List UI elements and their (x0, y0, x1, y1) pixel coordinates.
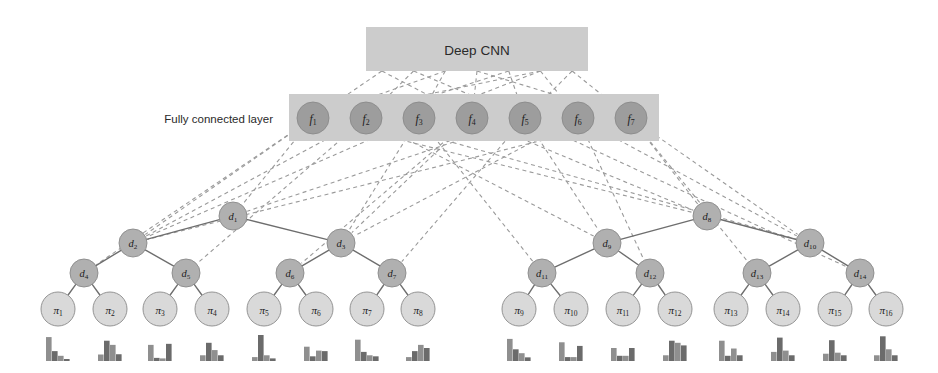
decision-node-d4[interactable]: d4 (70, 259, 98, 287)
histogram-bar (737, 355, 743, 361)
leaf-histogram-pi7 (355, 340, 379, 361)
tree-edge (765, 284, 773, 295)
histogram-bar (316, 351, 322, 361)
fc-node-f1[interactable]: f1 (297, 102, 329, 134)
leaf-node-pi12[interactable]: π12 (658, 292, 692, 326)
decision-node-d11[interactable]: d11 (528, 259, 556, 287)
histogram-bar (367, 355, 373, 361)
histogram-bar (823, 354, 829, 361)
leaf-node-pi6[interactable]: π6 (299, 292, 333, 326)
histogram-bar (218, 355, 224, 361)
leaf-histogram-pi9 (507, 339, 531, 361)
histogram-bar (611, 348, 617, 361)
histogram-bar (252, 357, 258, 361)
histogram-bar (663, 355, 669, 361)
tree-edge (147, 220, 220, 240)
leaf-node-pi14[interactable]: π14 (766, 292, 800, 326)
decision-node-d6[interactable]: d6 (276, 259, 304, 287)
histogram-bar (264, 355, 270, 361)
leaf-node-pi8[interactable]: π8 (401, 292, 435, 326)
leaf-histogram-pi15 (823, 340, 847, 361)
decision-node-d9[interactable]: d9 (593, 229, 621, 257)
decision-node-d13[interactable]: d13 (743, 259, 771, 287)
tree-edge (68, 284, 76, 295)
fully-connected-layer-label: Fully connected layer (164, 113, 273, 125)
deep-cnn-label: Deep CNN (444, 43, 509, 58)
tree-edge (618, 251, 638, 265)
histogram-bar (166, 344, 172, 361)
leaf-node-pi1[interactable]: π1 (41, 292, 75, 326)
tree-edge (377, 284, 384, 295)
leaf-histogram-pi3 (148, 344, 172, 361)
fc-node-f7[interactable]: f7 (615, 102, 647, 134)
fc-node-f2[interactable]: f2 (350, 102, 382, 134)
fc-to-decision-edge (301, 128, 459, 263)
tree-edge (247, 219, 328, 239)
histogram-bar (789, 355, 795, 361)
histogram-bar (412, 351, 418, 361)
tree-edge (551, 284, 561, 296)
decision-node-d8[interactable]: d8 (693, 202, 721, 230)
histogram-bar (731, 349, 737, 361)
leaf-histogram-pi2 (98, 341, 122, 361)
fc-node-f4[interactable]: f4 (456, 102, 488, 134)
histogram-bar (110, 345, 116, 361)
diagram-canvas: f1f2f3f4f5f6f7d1d2d3d4d5d6d7d8d9d10d11d1… (0, 0, 938, 373)
histogram-bar (424, 348, 430, 361)
leaf-node-pi13[interactable]: π13 (714, 292, 748, 326)
decision-node-d14[interactable]: d14 (846, 259, 874, 287)
leaf-node-pi5[interactable]: π5 (247, 292, 281, 326)
histogram-bar (874, 355, 880, 361)
histogram-bar (623, 356, 629, 361)
histogram-bar (577, 346, 583, 361)
tree-edge (741, 284, 749, 295)
decision-node-d1[interactable]: d1 (219, 202, 247, 230)
tree-edge (353, 250, 380, 266)
leaf-histogram-pi10 (559, 342, 583, 361)
histogram-bar (681, 345, 687, 361)
tree-edge (96, 250, 121, 265)
decision-node-d10[interactable]: d10 (796, 229, 824, 257)
leaf-histogram-pi8 (406, 345, 430, 361)
leaf-node-pi10[interactable]: π10 (554, 292, 588, 326)
tree-edge (845, 284, 852, 295)
decision-node-d2[interactable]: d2 (119, 229, 147, 257)
leaf-node-pi2[interactable]: π2 (93, 292, 127, 326)
decision-node-d12[interactable]: d12 (636, 259, 664, 287)
histogram-bar (719, 341, 725, 361)
decision-node-d3[interactable]: d3 (327, 229, 355, 257)
leaf-histogram-pi12 (663, 341, 687, 361)
tree-edge (822, 250, 848, 266)
leaf-node-pi16[interactable]: π16 (869, 292, 903, 326)
histogram-bar (841, 355, 847, 361)
histogram-bar (270, 358, 276, 361)
decision-node-d5[interactable]: d5 (172, 259, 200, 287)
histogram-bar (507, 339, 513, 361)
tree-edge (400, 284, 408, 295)
histogram-bar (892, 355, 898, 361)
leaf-node-pi15[interactable]: π15 (818, 292, 852, 326)
histogram-bar (46, 337, 52, 361)
fc-node-f3[interactable]: f3 (403, 102, 435, 134)
histogram-bar (116, 354, 122, 361)
leaf-node-pi7[interactable]: π7 (350, 292, 384, 326)
tree-edge (633, 284, 641, 295)
leaf-node-pi3[interactable]: π3 (143, 292, 177, 326)
fc-to-decision-edge (242, 130, 302, 204)
histogram-bar (200, 355, 206, 361)
histogram-bar (513, 349, 519, 361)
fc-node-f5[interactable]: f5 (509, 102, 541, 134)
histogram-bar (64, 359, 70, 361)
histogram-bar (559, 342, 565, 361)
fc-node-f6[interactable]: f6 (562, 102, 594, 134)
leaf-node-pi11[interactable]: π11 (606, 292, 640, 326)
leaf-node-pi9[interactable]: π9 (502, 292, 536, 326)
leaf-histogram-pi5 (252, 335, 276, 361)
histogram-bar (322, 351, 328, 361)
tree-edge (194, 284, 202, 295)
tree-edge (145, 250, 174, 266)
decision-node-d7[interactable]: d7 (378, 259, 406, 287)
histogram-bar (835, 353, 841, 361)
histogram-bar (310, 356, 316, 361)
leaf-node-pi4[interactable]: π4 (195, 292, 229, 326)
